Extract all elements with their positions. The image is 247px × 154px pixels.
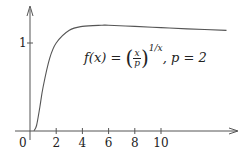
formula-param: , p = 2 bbox=[163, 50, 207, 65]
formula-annotation: f(x) = (xp)1/x, p = 2 bbox=[84, 46, 207, 70]
y-tick-label: 1 bbox=[19, 36, 27, 50]
x-tick-label: 8 bbox=[131, 136, 139, 150]
x-tick-label: 10 bbox=[153, 136, 168, 150]
origin-label: 0 bbox=[19, 136, 27, 150]
y-ticks: 1 bbox=[19, 36, 33, 50]
formula-fraction: xp bbox=[133, 49, 141, 68]
formula-lhs: f(x) = bbox=[84, 50, 125, 65]
formula-exponent: 1/x bbox=[149, 43, 163, 53]
function-plot: 246810 1 0 bbox=[0, 0, 247, 154]
function-curve bbox=[34, 25, 227, 131]
x-tick-label: 2 bbox=[52, 136, 60, 150]
x-tick-label: 4 bbox=[79, 136, 87, 150]
x-tick-label: 6 bbox=[105, 136, 113, 150]
